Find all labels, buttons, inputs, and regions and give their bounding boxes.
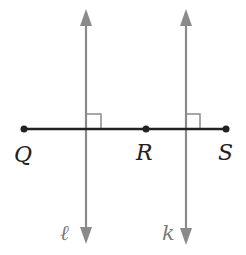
point-q xyxy=(21,126,28,133)
arrow-down-icon xyxy=(80,227,92,244)
arrow-up-icon xyxy=(180,9,192,26)
right-angle-marker-k xyxy=(186,114,200,129)
arrow-up-icon xyxy=(80,9,92,26)
geometry-figure: Q R S ℓ k xyxy=(0,0,246,255)
right-angle-marker-l xyxy=(86,114,101,129)
line-k xyxy=(180,9,192,245)
label-s: S xyxy=(218,140,233,165)
label-q: Q xyxy=(14,142,32,167)
line-l xyxy=(80,9,92,244)
label-r: R xyxy=(135,140,153,165)
diagram-canvas: Q R S ℓ k xyxy=(0,0,246,255)
label-k: k xyxy=(162,221,175,245)
label-l: ℓ xyxy=(60,221,69,245)
point-s xyxy=(223,126,230,133)
point-r xyxy=(143,126,150,133)
arrow-down-icon xyxy=(180,228,192,245)
